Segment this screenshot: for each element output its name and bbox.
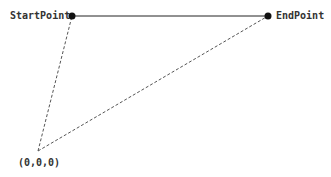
diagram-canvas	[0, 0, 331, 177]
start-point-label: StartPoint	[10, 10, 70, 22]
origin-label: (0,0,0)	[18, 157, 60, 169]
origin-to-start-dashed	[38, 16, 72, 151]
end-point-dot	[265, 13, 272, 20]
origin-to-end-dashed	[38, 16, 268, 151]
end-point-label: EndPoint	[276, 10, 324, 22]
